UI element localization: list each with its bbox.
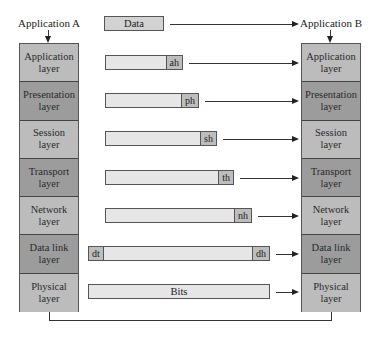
sender-layer-stack: Applicationlayer Presentationlayer Sessi…: [19, 43, 79, 312]
data-link-arrow-icon: [292, 251, 299, 257]
sender-physical-layer: Physicallayer: [20, 274, 78, 312]
data-arrow-icon: [292, 21, 299, 27]
sender-data-link-layer: Data linklayer: [20, 235, 78, 273]
receiver-layer-stack: Applicationlayer Presentationlayer Sessi…: [301, 43, 361, 312]
data-unit: Data: [104, 16, 164, 31]
session-arrow-icon: [292, 136, 299, 142]
transport-header: th: [218, 171, 233, 184]
receiver-network-layer: Networklayer: [302, 197, 360, 235]
receiver-data-link-layer: Data linklayer: [302, 235, 360, 273]
session-header: sh: [200, 132, 216, 145]
data-label: Data: [105, 17, 163, 30]
application-header: ah: [166, 56, 182, 69]
physical-arrow-icon: [292, 289, 299, 295]
medium-line-bottom: [49, 320, 332, 321]
data-link-header: dh: [252, 247, 269, 260]
receiver-physical-layer: Physicallayer: [302, 274, 360, 312]
transport-arrow-line: [240, 178, 294, 179]
network-pdu: nh: [105, 208, 252, 223]
transport-arrow-icon: [292, 175, 299, 181]
application-b-arrow-icon: [327, 36, 333, 43]
transport-pdu: th: [105, 170, 234, 185]
session-arrow-line: [223, 139, 294, 140]
application-arrow-icon: [292, 60, 299, 66]
physical-bits: Bits: [88, 284, 270, 299]
application-a-label: Application A: [4, 17, 94, 29]
application-arrow-line: [189, 63, 294, 64]
network-arrow-icon: [292, 213, 299, 219]
presentation-arrow-line: [205, 101, 294, 102]
network-header: nh: [234, 209, 251, 222]
receiver-session-layer: Sessionlayer: [302, 121, 360, 159]
sender-network-layer: Networklayer: [20, 197, 78, 235]
application-a-arrow-icon: [45, 36, 51, 43]
presentation-header: ph: [181, 94, 198, 107]
data-link-frame: dt dh: [88, 246, 270, 261]
sender-application-layer: Applicationlayer: [20, 44, 78, 82]
receiver-presentation-layer: Presentationlayer: [302, 82, 360, 120]
sender-presentation-layer: Presentationlayer: [20, 82, 78, 120]
session-pdu: sh: [105, 131, 217, 146]
application-b-label: Application B: [286, 17, 376, 29]
bits-label: Bits: [89, 285, 269, 298]
data-link-trailer: dt: [89, 247, 104, 260]
medium-line-right: [331, 312, 332, 321]
receiver-transport-layer: Transportlayer: [302, 159, 360, 197]
application-pdu: ah: [105, 55, 183, 70]
sender-transport-layer: Transportlayer: [20, 159, 78, 197]
sender-session-layer: Sessionlayer: [20, 121, 78, 159]
data-arrow-line: [170, 24, 294, 25]
network-arrow-line: [258, 216, 294, 217]
presentation-arrow-icon: [292, 98, 299, 104]
receiver-application-layer: Applicationlayer: [302, 44, 360, 82]
presentation-pdu: ph: [105, 93, 199, 108]
